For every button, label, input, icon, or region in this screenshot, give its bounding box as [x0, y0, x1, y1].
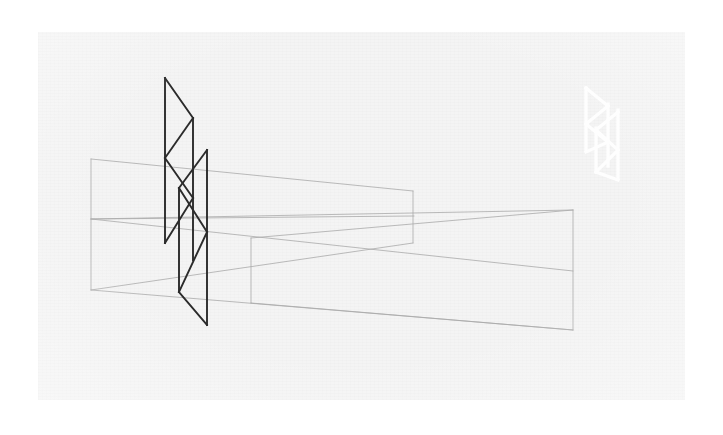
dark-lattice-verticals — [165, 78, 207, 325]
right-wedge-lower-edge — [91, 290, 573, 330]
lattice-diagonal-1 — [165, 78, 193, 118]
lattice-diagonal-2 — [165, 118, 193, 158]
right-horizon-line — [91, 219, 573, 271]
light-line-group — [91, 159, 573, 330]
lattice-diagonal-8 — [179, 292, 207, 325]
white-lattice-motif — [586, 88, 618, 180]
artwork-stage — [0, 0, 723, 435]
right-wedge-upper-edge — [91, 210, 573, 219]
artwork-vector-layer — [0, 0, 723, 435]
dark-lattice-motif — [165, 78, 207, 325]
middle-trapezoid-top-edge — [251, 210, 573, 238]
left-trapezoid-top-edge — [91, 159, 413, 191]
right-perspective-trapezoid — [91, 210, 573, 330]
middle-perspective-trapezoid — [251, 210, 573, 330]
dark-lattice-diagonals — [165, 78, 207, 325]
white-lattice-diagonal-1 — [586, 88, 608, 106]
left-horizon-line — [91, 216, 414, 219]
white-lattice-diagonal-8 — [596, 172, 618, 180]
left-trapezoid-bottom-edge — [91, 243, 413, 290]
